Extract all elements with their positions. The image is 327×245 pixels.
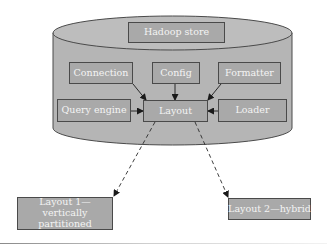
hadoop-store-label: Hadoop store — [128, 22, 225, 43]
connection-node: Connection — [69, 62, 133, 84]
layout2-hybrid-node: Layout 2—hybrid — [228, 198, 311, 220]
formatter-node: Formatter — [218, 62, 281, 84]
layout1-vertically-partitioned-node: Layout 1—vertically partitioned — [17, 197, 113, 230]
query-engine-node: Query engine — [57, 99, 131, 122]
layout-node: Layout — [143, 100, 208, 122]
loader-node: Loader — [218, 99, 287, 122]
bottom-rule-divider — [0, 243, 327, 244]
config-node: Config — [152, 62, 200, 84]
